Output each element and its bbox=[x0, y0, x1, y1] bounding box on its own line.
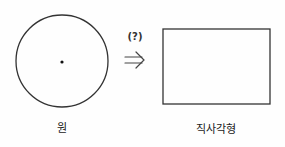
question-label: (?) bbox=[128, 31, 143, 42]
double-arrow-icon bbox=[125, 52, 144, 68]
circle-label: 원 bbox=[57, 119, 67, 135]
diagram-canvas: (?) 원 직사각형 bbox=[0, 0, 285, 147]
rectangle-label: 직사각형 bbox=[196, 120, 236, 136]
diagram-drawing bbox=[0, 0, 285, 147]
rectangle-shape bbox=[163, 29, 270, 104]
circle-center-dot bbox=[60, 60, 63, 63]
